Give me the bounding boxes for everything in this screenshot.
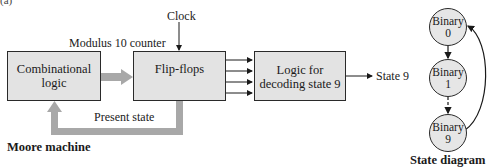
state-diagram-caption: State diagram xyxy=(410,153,485,168)
state-node-9: Binary 9 xyxy=(429,114,467,152)
state-label: Binary xyxy=(432,121,463,133)
transition-9-0 xyxy=(465,26,486,130)
state-node-1: Binary 1 xyxy=(429,59,467,97)
state-value: 1 xyxy=(445,78,451,90)
state-label: Binary xyxy=(432,66,463,78)
block-label: Combinational xyxy=(17,62,91,76)
figure-number: (a) xyxy=(0,0,12,6)
flip-flops-block: Flip-flops xyxy=(133,51,226,101)
combinational-logic-block: Combinational logic xyxy=(7,51,101,101)
output-label: State 9 xyxy=(376,69,409,84)
decoder-block: Logic for decoding state 9 xyxy=(254,51,346,101)
state-node-0: Binary 0 xyxy=(429,8,467,46)
state-value: 0 xyxy=(445,27,451,39)
feedback-label: Present state xyxy=(94,110,154,125)
state-label: Binary xyxy=(432,15,463,27)
block-label: decoding state 9 xyxy=(259,77,340,91)
clock-label: Clock xyxy=(167,9,196,24)
block-label: Flip-flops xyxy=(155,62,204,76)
moore-machine-caption: Moore machine xyxy=(7,140,90,155)
state-value: 9 xyxy=(445,133,451,145)
block-label: Logic for xyxy=(259,63,340,77)
block-label: logic xyxy=(17,76,91,90)
data-flow-arrow xyxy=(101,69,133,85)
counter-label: Modulus 10 counter xyxy=(69,36,166,51)
